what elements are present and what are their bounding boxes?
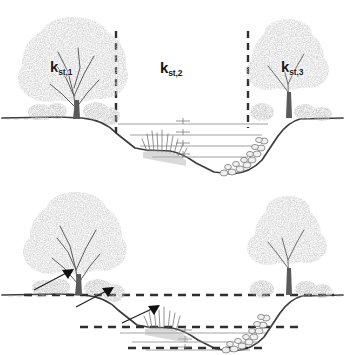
left-large-tree (18, 17, 128, 119)
upper-cross-section: kst,1 kst,2 kst,3 (0, 0, 345, 180)
lower-cross-section: kst,3 kst,2 kst,1 (0, 178, 345, 355)
zone-dividers (116, 31, 248, 133)
upper-scene-svg (0, 0, 345, 180)
left-tree-trunk (73, 100, 80, 119)
lower-scene-svg (0, 178, 345, 355)
water-level-lines (118, 124, 268, 157)
label-kst3-upper: kst,3 (281, 59, 303, 77)
label-kst2-upper: kst,2 (160, 60, 182, 78)
left-large-tree (23, 192, 127, 295)
right-tree (247, 196, 327, 295)
terrain-profile (2, 294, 343, 351)
label-kst1-upper-subscript: st,1 (58, 67, 72, 77)
right-tree-trunk (286, 92, 292, 118)
terrain-profile (2, 117, 343, 174)
leader-arrows (34, 270, 158, 323)
label-kst3-upper-subscript: st,3 (289, 67, 303, 77)
right-tree-trunk (286, 268, 292, 295)
left-tree-trunk (75, 274, 82, 295)
label-kst2-upper-subscript: st,2 (168, 68, 182, 78)
label-kst1-upper: kst,1 (50, 59, 72, 77)
figure-root: kst,1 kst,2 kst,3 (0, 0, 345, 355)
